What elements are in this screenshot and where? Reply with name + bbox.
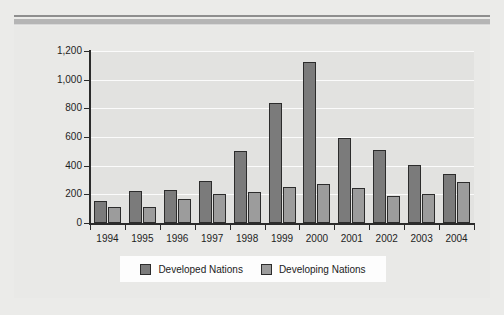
y-axis-tick-label: 0 (36, 218, 82, 228)
y-axis-tick (84, 80, 90, 81)
bar-developing-2001 (352, 188, 365, 223)
x-axis-tick-label: 2003 (405, 233, 439, 245)
x-axis-tick-label: 1994 (90, 233, 124, 245)
legend-swatch-developing-icon (261, 264, 272, 275)
x-axis-tick-label: 2004 (440, 233, 474, 245)
x-axis-tick (125, 225, 126, 230)
bar-developed-1998 (234, 151, 247, 223)
bar-developed-2001 (338, 138, 351, 223)
x-axis-tick-label: 2002 (370, 233, 404, 245)
x-axis-tick (230, 225, 231, 230)
gridline (90, 137, 474, 138)
x-axis-tick (404, 225, 405, 230)
bar-developing-1999 (283, 187, 296, 223)
x-axis-tick (474, 225, 475, 230)
bar-developed-2003 (408, 165, 421, 223)
x-axis-tick (439, 225, 440, 230)
legend-entry-developing: Developing Nations (261, 264, 366, 275)
legend-swatch-developed-icon (140, 264, 151, 275)
legend-entry-developed: Developed Nations (140, 264, 243, 275)
y-axis-tick (84, 51, 90, 52)
bar-developed-1999 (269, 103, 282, 223)
bar-developing-1994 (108, 207, 121, 223)
x-axis-tick-label: 1996 (160, 233, 194, 245)
x-axis-tick-label: 1997 (195, 233, 229, 245)
y-axis-tick-label: 1,200 (36, 46, 82, 56)
x-axis-tick (369, 225, 370, 230)
gridline (90, 51, 474, 52)
bar-developing-1998 (248, 192, 261, 223)
x-axis-tick-label: 1998 (230, 233, 264, 245)
x-axis-tick (90, 225, 91, 230)
bar-developed-1996 (164, 190, 177, 223)
y-axis-tick-label: 800 (36, 103, 82, 113)
figure-page: 02004006008001,0001,200 1994199519961997… (0, 0, 504, 315)
y-axis-tick-label: 1,000 (36, 75, 82, 85)
y-axis-tick (84, 194, 90, 195)
x-axis-tick-label: 1999 (265, 233, 299, 245)
x-axis-tick (299, 225, 300, 230)
bar-developed-2002 (373, 150, 386, 223)
bar-developed-2000 (303, 62, 316, 223)
x-axis-tick-label: 1995 (125, 233, 159, 245)
bar-developing-2004 (457, 182, 470, 223)
top-rule-thin (14, 24, 490, 25)
bar-developing-1995 (143, 207, 156, 223)
y-axis-tick (84, 108, 90, 109)
bar-developed-2004 (443, 174, 456, 223)
bar-developing-1996 (178, 199, 191, 223)
top-rule-dark (14, 15, 490, 17)
x-axis-tick (334, 225, 335, 230)
x-axis-tick (265, 225, 266, 230)
y-axis-tick-label: 600 (36, 132, 82, 142)
legend-label-developing: Developing Nations (279, 264, 366, 275)
y-axis-tick (84, 166, 90, 167)
y-axis-tick-label: 200 (36, 189, 82, 199)
legend-label-developed: Developed Nations (158, 264, 243, 275)
x-axis-line (89, 223, 475, 225)
bar-developing-2002 (387, 196, 400, 223)
bar-developed-1995 (129, 191, 142, 223)
bar-developing-2003 (422, 194, 435, 223)
chart-legend: Developed Nations Developing Nations (120, 256, 386, 282)
bar-developing-2000 (317, 184, 330, 223)
gridline (90, 80, 474, 81)
x-axis-tick (160, 225, 161, 230)
x-axis-tick-label: 2000 (300, 233, 334, 245)
gridline (90, 108, 474, 109)
bar-developing-1997 (213, 194, 226, 223)
x-axis-tick-label: 2001 (335, 233, 369, 245)
bar-developed-1994 (94, 201, 107, 223)
y-axis-tick-label: 400 (36, 161, 82, 171)
bar-developed-1997 (199, 181, 212, 223)
y-axis-tick (84, 223, 90, 224)
plot-area (90, 51, 474, 223)
chart-container: 02004006008001,0001,200 1994199519961997… (14, 26, 490, 298)
y-axis-tick (84, 137, 90, 138)
x-axis-tick (195, 225, 196, 230)
